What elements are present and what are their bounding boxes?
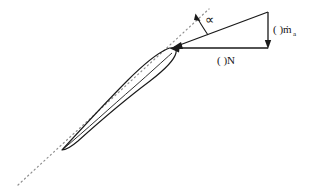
figure-background <box>0 0 313 193</box>
vertical-vector-label-paren: ( ) <box>273 23 283 36</box>
horizontal-vector-label: ( )N <box>217 54 235 67</box>
vertical-vector-label-symbol: ṁ <box>283 23 292 35</box>
blade-velocity-triangle-diagram: ∝ ( ) ṁ a ( )N <box>0 0 313 193</box>
angle-of-attack-label: ∝ <box>205 12 214 27</box>
